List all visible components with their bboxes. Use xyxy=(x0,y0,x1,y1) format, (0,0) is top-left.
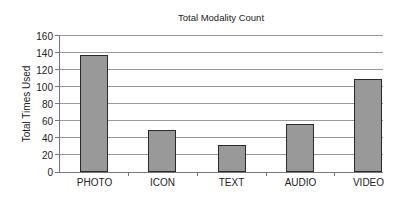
chart-title: Total Modality Count xyxy=(59,12,383,23)
gridline xyxy=(59,52,383,53)
x-tick-label: TEXT xyxy=(197,177,266,188)
gridline xyxy=(59,35,383,36)
y-tick-label: 20 xyxy=(42,150,53,161)
y-tick-label: 60 xyxy=(42,116,53,127)
bar-audio xyxy=(286,124,314,172)
x-tick-label: AUDIO xyxy=(266,177,335,188)
x-tick xyxy=(334,172,335,176)
bar-photo xyxy=(80,55,108,172)
y-tick-label: 0 xyxy=(47,167,53,178)
bar-text xyxy=(218,145,246,172)
x-tick xyxy=(266,172,267,176)
x-tick-label: VIDEO xyxy=(334,177,403,188)
y-axis-label: Total Times Used xyxy=(21,66,32,143)
y-tick-label: 140 xyxy=(36,48,53,59)
x-tick xyxy=(128,172,129,176)
bar-icon xyxy=(148,130,176,172)
y-tick-label: 120 xyxy=(36,65,53,76)
x-tick-label: ICON xyxy=(128,177,197,188)
x-tick-label: PHOTO xyxy=(60,177,129,188)
y-tick-label: 100 xyxy=(36,82,53,93)
y-axis xyxy=(59,35,60,172)
plot-area: 0 20 40 60 80 100 120 140 160 PHOTO ICON… xyxy=(59,35,383,172)
bar-video xyxy=(354,79,382,172)
y-tick-label: 160 xyxy=(36,31,53,42)
y-tick-label: 80 xyxy=(42,99,53,110)
y-tick-label: 40 xyxy=(42,133,53,144)
x-tick xyxy=(197,172,198,176)
